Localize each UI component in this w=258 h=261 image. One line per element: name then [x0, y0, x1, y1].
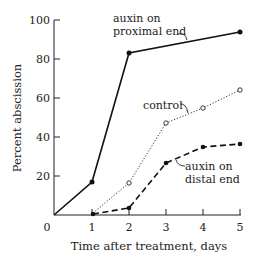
- x-tick-label: 0: [44, 221, 51, 234]
- annotation-proximal: auxin on proximal end: [113, 12, 187, 40]
- x-axis: [54, 209, 241, 215]
- x-tick-label: 2: [126, 221, 133, 234]
- series-proximal: [54, 30, 243, 216]
- annotation-proximal-line1: auxin on: [113, 12, 161, 25]
- annotation-control-text: control: [143, 99, 183, 112]
- y-tick-label: 20: [36, 170, 50, 183]
- y-tick-label: 100: [29, 14, 50, 27]
- x-tick-label: 5: [237, 221, 244, 234]
- y-tick-label: 60: [36, 92, 50, 105]
- y-axis-title: Percent abscission: [10, 63, 24, 172]
- annotation-distal: auxin on distal end: [176, 160, 240, 186]
- y-tick-label: 80: [36, 53, 50, 66]
- annotation-control: control: [143, 99, 188, 113]
- y-axis: [54, 20, 60, 215]
- annotation-proximal-line2: proximal end: [113, 25, 186, 38]
- x-axis-title: Time after treatment, days: [71, 239, 228, 253]
- annotation-distal-line2: distal end: [185, 173, 240, 186]
- chart: 100 80 60 40 20 0 1 2 3 4 5 Time after t…: [0, 0, 258, 261]
- x-tick-label: 3: [163, 221, 170, 234]
- y-tick-label: 40: [36, 131, 50, 144]
- x-tick-label: 1: [89, 221, 96, 234]
- x-tick-label: 4: [200, 221, 207, 234]
- y-tick-labels: 100 80 60 40 20: [29, 14, 50, 183]
- x-tick-labels: 0 1 2 3 4 5: [44, 221, 244, 234]
- annotation-distal-line1: auxin on: [185, 160, 233, 173]
